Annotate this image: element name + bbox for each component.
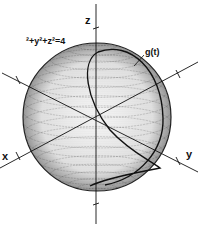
sphere-equation-label: ²+y²+z²=4: [26, 36, 65, 46]
sphere-stipple: [23, 43, 171, 191]
y-axis-label: y: [186, 148, 193, 160]
sphere-diagram: z x y ²+y²+z²=4 g(t): [0, 0, 206, 228]
x-axis-label: x: [2, 150, 9, 162]
z-axis-label: z: [85, 14, 91, 26]
curve-label: g(t): [145, 47, 160, 57]
x-axis-tick: [176, 70, 180, 78]
